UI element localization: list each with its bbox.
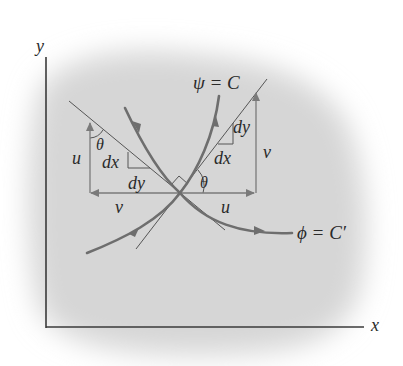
right-u-label: u [221,197,230,217]
right-theta-label: θ [200,174,208,191]
left-dx-label: dx [102,152,119,172]
y-axis-label: y [34,36,44,56]
right-dx-label: dx [214,148,231,168]
potential-line-label: ϕ = C′ [297,222,347,243]
right-dy-label: dy [233,117,250,137]
background-shading [29,51,366,355]
flow-net-diagram: y x ψ = C ϕ = C′ u θ dx dy v dy dx [0,0,403,366]
x-axis-label: x [370,315,379,335]
right-v-label: v [263,142,271,162]
streamline-label: ψ = C [193,72,240,93]
left-theta-label: θ [96,136,104,153]
left-dy-label: dy [128,173,145,193]
left-v-label: v [115,197,123,217]
left-u-label: u [72,148,81,168]
